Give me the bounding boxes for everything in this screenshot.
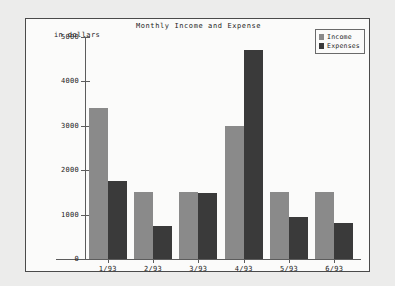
x-tick-label: 4/93 <box>221 265 267 273</box>
bar-expenses-3-93 <box>198 193 217 259</box>
legend-item-income: Income <box>319 33 360 41</box>
x-tick-mark <box>198 259 199 263</box>
x-tick-label: 6/93 <box>311 265 357 273</box>
chart-frame: Monthly Income and Expense in dollars 01… <box>25 18 370 272</box>
legend-item-expenses: Expenses <box>319 42 360 50</box>
bar-expenses-6-93 <box>334 223 353 259</box>
y-tick-label: 3000 <box>28 122 79 130</box>
chart-legend: IncomeExpenses <box>315 29 365 54</box>
x-tick-mark <box>108 259 109 263</box>
plot-area <box>85 37 357 259</box>
legend-swatch-icon <box>319 43 324 49</box>
y-tick-label: 2000 <box>28 166 79 174</box>
y-tick-label: 0 <box>28 255 79 263</box>
x-tick-label: 5/93 <box>266 265 312 273</box>
y-tick-mark <box>81 259 90 260</box>
x-tick-mark <box>244 259 245 263</box>
y-tick-label: 5000 <box>28 33 79 41</box>
x-tick-label: 2/93 <box>130 265 176 273</box>
bar-income-5-93 <box>270 192 289 259</box>
x-tick-mark <box>334 259 335 263</box>
x-tick-mark <box>153 259 154 263</box>
bar-income-3-93 <box>179 192 198 259</box>
chart-page: Monthly Income and Expense in dollars 01… <box>0 0 395 286</box>
x-tick-label: 1/93 <box>85 265 131 273</box>
bar-income-2-93 <box>134 192 153 259</box>
bar-income-6-93 <box>315 192 334 259</box>
x-tick-label: 3/93 <box>175 265 221 273</box>
y-tick-label: 1000 <box>28 211 79 219</box>
bar-expenses-5-93 <box>289 217 308 259</box>
legend-swatch-icon <box>319 34 324 40</box>
bar-expenses-2-93 <box>153 226 172 259</box>
legend-label: Expenses <box>327 42 360 50</box>
x-tick-mark <box>289 259 290 263</box>
bar-expenses-4-93 <box>244 50 263 259</box>
legend-label: Income <box>327 33 352 41</box>
bar-expenses-1-93 <box>108 181 127 259</box>
bar-income-4-93 <box>225 126 244 259</box>
y-tick-label: 4000 <box>28 77 79 85</box>
bar-income-1-93 <box>89 108 108 259</box>
x-axis-line <box>56 259 361 260</box>
